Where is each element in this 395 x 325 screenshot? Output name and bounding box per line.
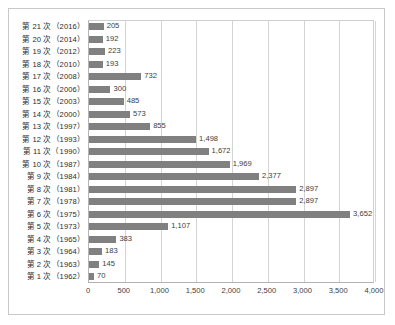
bar-row: 223 xyxy=(89,46,373,59)
bar[interactable] xyxy=(89,173,259,180)
bar-row: 383 xyxy=(89,234,373,247)
bar-value-label: 2,897 xyxy=(299,183,318,194)
bar-value-label: 1,498 xyxy=(199,133,218,144)
category-label: 第 8 次（1981） xyxy=(9,184,85,197)
bar-value-label: 1,672 xyxy=(212,145,231,156)
bar-value-label: 300 xyxy=(113,83,126,94)
bar-value-label: 205 xyxy=(107,20,120,31)
category-label: 第 15 次（2003） xyxy=(9,96,85,109)
bar-value-label: 855 xyxy=(153,120,166,131)
bar[interactable] xyxy=(89,61,103,68)
x-tick-label: 4,000 xyxy=(364,286,383,295)
category-label: 第 6 次（1975） xyxy=(9,209,85,222)
bar-value-label: 192 xyxy=(106,33,119,44)
bar[interactable] xyxy=(89,36,103,43)
bar-row: 732 xyxy=(89,71,373,84)
chart-frame: 第 21 次（2016）第 20 次（2014）第 19 次（2012）第 18… xyxy=(8,8,385,315)
bar[interactable] xyxy=(89,223,168,230)
bar-row: 1,672 xyxy=(89,146,373,159)
bar[interactable] xyxy=(89,98,124,105)
bar-value-label: 573 xyxy=(133,108,146,119)
bar-value-label: 732 xyxy=(144,70,157,81)
category-label: 第 5 次（1973） xyxy=(9,221,85,234)
x-axis: 05001,0001,5002,0002,5003,0003,5004,000 xyxy=(88,285,375,301)
bar[interactable] xyxy=(89,186,296,193)
bar-value-label: 1,107 xyxy=(171,220,190,231)
bar[interactable] xyxy=(89,23,104,30)
bar-row: 2,897 xyxy=(89,196,373,209)
x-tick-label: 3,000 xyxy=(293,286,312,295)
x-tick-label: 500 xyxy=(117,286,130,295)
bar-row: 485 xyxy=(89,96,373,109)
bar[interactable] xyxy=(89,248,102,255)
bar-value-label: 383 xyxy=(119,233,132,244)
bar-value-label: 193 xyxy=(106,58,119,69)
gridline xyxy=(375,21,376,282)
category-label: 第 21 次（2016） xyxy=(9,21,85,34)
bar-row: 1,498 xyxy=(89,134,373,147)
category-label: 第 2 次（1963） xyxy=(9,259,85,272)
x-tick-label: 0 xyxy=(86,286,90,295)
category-label: 第 7 次（1978） xyxy=(9,196,85,209)
category-label: 第 11 次（1990） xyxy=(9,146,85,159)
bar-row: 145 xyxy=(89,259,373,272)
bar-value-label: 183 xyxy=(105,245,118,256)
category-label: 第 10 次（1987） xyxy=(9,159,85,172)
bar-row: 193 xyxy=(89,59,373,72)
plot-area: 2051922231937323004855738551,4981,6721,9… xyxy=(88,20,374,283)
bar[interactable] xyxy=(89,148,209,155)
bar[interactable] xyxy=(89,236,116,243)
bar-value-label: 1,969 xyxy=(233,158,252,169)
category-label: 第 3 次（1964） xyxy=(9,246,85,259)
bar[interactable] xyxy=(89,198,296,205)
bar[interactable] xyxy=(89,48,105,55)
bar-row: 70 xyxy=(89,271,373,284)
bar[interactable] xyxy=(89,261,99,268)
bar-value-label: 3,652 xyxy=(353,208,372,219)
category-label: 第 9 次（1984） xyxy=(9,171,85,184)
x-tick-label: 1,500 xyxy=(186,286,205,295)
category-axis: 第 21 次（2016）第 20 次（2014）第 19 次（2012）第 18… xyxy=(9,21,85,284)
category-label: 第 14 次（2000） xyxy=(9,109,85,122)
bar-value-label: 145 xyxy=(102,258,115,269)
bar[interactable] xyxy=(89,73,141,80)
bar-row: 573 xyxy=(89,109,373,122)
bar-row: 1,969 xyxy=(89,159,373,172)
bar[interactable] xyxy=(89,111,130,118)
category-label: 第 4 次（1965） xyxy=(9,234,85,247)
bar-row: 2,377 xyxy=(89,171,373,184)
bar-row: 3,652 xyxy=(89,209,373,222)
bar-row: 2,897 xyxy=(89,184,373,197)
bar-value-label: 223 xyxy=(108,45,121,56)
bar-value-label: 2,897 xyxy=(299,195,318,206)
category-label: 第 12 次（1993） xyxy=(9,134,85,147)
bar[interactable] xyxy=(89,123,150,130)
bar-row: 205 xyxy=(89,21,373,34)
x-tick-label: 3,500 xyxy=(329,286,348,295)
category-label: 第 1 次（1962） xyxy=(9,271,85,284)
category-label: 第 13 次（1997） xyxy=(9,121,85,134)
bar-value-label: 485 xyxy=(127,95,140,106)
bar[interactable] xyxy=(89,136,196,143)
category-label: 第 16 次（2006） xyxy=(9,84,85,97)
x-tick-label: 1,000 xyxy=(150,286,169,295)
bar-row: 183 xyxy=(89,246,373,259)
category-label: 第 20 次（2014） xyxy=(9,34,85,47)
category-label: 第 18 次（2010） xyxy=(9,59,85,72)
bar-value-label: 2,377 xyxy=(262,170,281,181)
bar[interactable] xyxy=(89,161,230,168)
bar-value-label: 70 xyxy=(97,270,105,281)
bar-row: 855 xyxy=(89,121,373,134)
bar[interactable] xyxy=(89,86,110,93)
bar[interactable] xyxy=(89,211,350,218)
x-tick-label: 2,000 xyxy=(221,286,240,295)
bar[interactable] xyxy=(89,273,94,280)
bar-row: 192 xyxy=(89,34,373,47)
category-label: 第 19 次（2012） xyxy=(9,46,85,59)
category-label: 第 17 次（2008） xyxy=(9,71,85,84)
x-tick-label: 2,500 xyxy=(257,286,276,295)
